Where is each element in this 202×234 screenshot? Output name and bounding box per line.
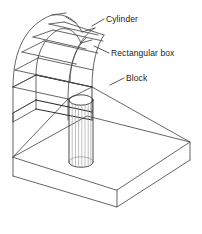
vertical-cylinder-geometry xyxy=(69,95,93,167)
arch-shell-geometry xyxy=(13,13,104,99)
callout-label-rectangular-box: Rectangular box xyxy=(111,48,174,58)
block-upright-geometry xyxy=(13,75,190,157)
base-block-geometry xyxy=(13,116,190,207)
technical-drawing-figure: Cylinder Rectangular box Block xyxy=(0,0,202,234)
callout-label-block: Block xyxy=(126,73,147,83)
leader-block xyxy=(110,78,124,85)
callout-label-cylinder: Cylinder xyxy=(106,14,138,24)
isometric-wireframe-svg xyxy=(0,0,202,234)
leader-cylinder xyxy=(92,19,104,26)
